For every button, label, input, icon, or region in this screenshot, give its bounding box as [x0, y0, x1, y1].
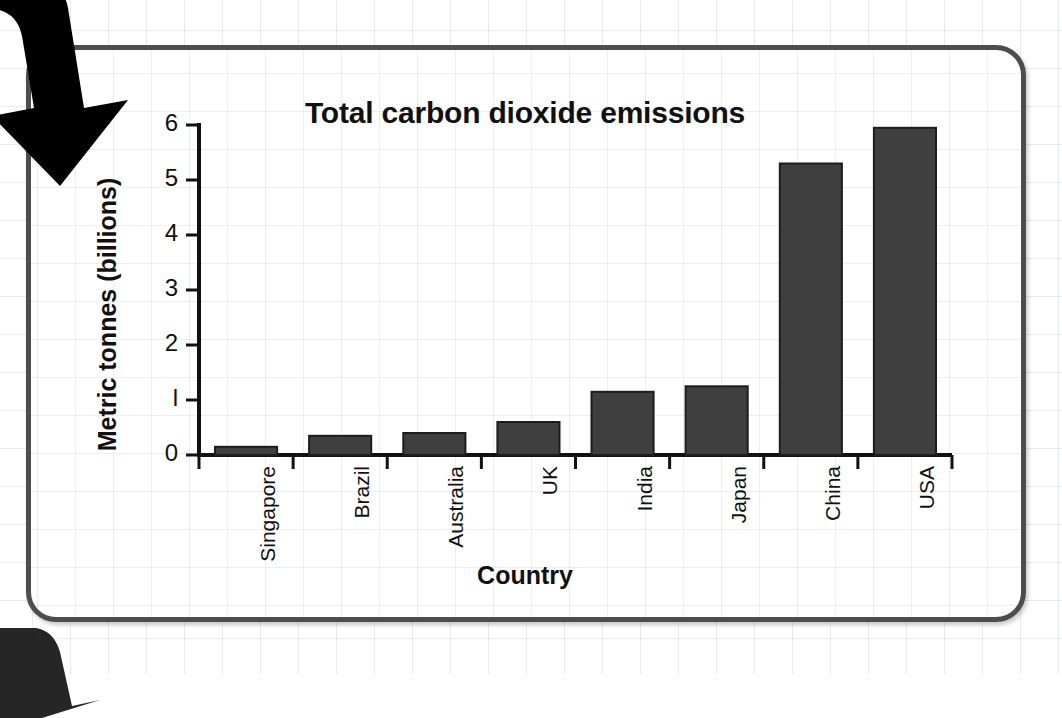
chart-card	[26, 45, 1026, 622]
arrow-bottom-left-icon	[0, 628, 102, 718]
card-grid-background	[31, 50, 1021, 617]
arrow-top-left-icon	[0, 0, 138, 190]
